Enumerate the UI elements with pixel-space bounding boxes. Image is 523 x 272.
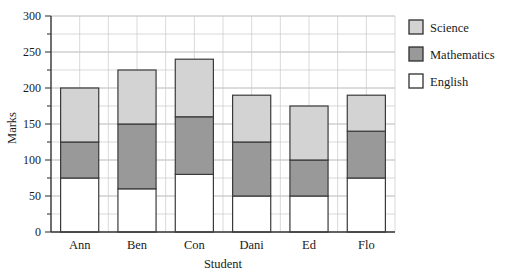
bar-flo: [347, 95, 385, 232]
bar-segment-ed-english: [290, 196, 328, 232]
y-tick-label-200: 200: [23, 81, 41, 95]
legend-swatch-mathematics: [409, 47, 423, 61]
bar-con: [175, 59, 213, 232]
bar-segment-ann-mathematics: [61, 142, 99, 178]
bar-segment-flo-science: [347, 95, 385, 131]
bar-segment-con-mathematics: [175, 117, 213, 175]
x-label-ed: Ed: [302, 238, 317, 252]
bar-segment-con-science: [175, 59, 213, 117]
x-axis-category-labels: AnnBenConDaniEdFlo: [69, 238, 375, 252]
y-axis-ticks: [45, 16, 51, 232]
bar-segment-ann-science: [61, 88, 99, 142]
y-tick-label-0: 0: [35, 225, 41, 239]
bar-segment-dani-mathematics: [233, 142, 271, 196]
x-label-ann: Ann: [69, 238, 91, 252]
x-axis-title: Student: [204, 257, 243, 271]
bar-ed: [290, 106, 328, 232]
bar-ben: [118, 70, 156, 232]
bar-segment-dani-science: [233, 95, 271, 142]
y-tick-label-100: 100: [23, 153, 41, 167]
x-label-flo: Flo: [358, 238, 375, 252]
bar-segment-ed-science: [290, 106, 328, 160]
y-tick-label-250: 250: [23, 45, 41, 59]
y-tick-label-300: 300: [23, 9, 41, 23]
y-axis-tick-labels: 050100150200250300: [23, 9, 41, 239]
bar-dani: [233, 95, 271, 232]
bar-segment-dani-english: [233, 196, 271, 232]
x-label-dani: Dani: [240, 238, 265, 252]
legend-label-science: Science: [430, 21, 469, 35]
bar-segment-con-english: [175, 174, 213, 232]
bar-segment-ann-english: [61, 178, 99, 232]
legend-label-english: English: [430, 75, 469, 89]
bar-segment-flo-english: [347, 178, 385, 232]
bar-segment-ben-english: [118, 189, 156, 232]
bar-segment-ben-mathematics: [118, 124, 156, 189]
legend-swatch-science: [409, 20, 423, 34]
bar-segment-ed-mathematics: [290, 160, 328, 196]
x-label-ben: Ben: [127, 238, 148, 252]
legend-label-mathematics: Mathematics: [430, 48, 495, 62]
y-tick-label-150: 150: [23, 117, 41, 131]
y-tick-label-50: 50: [29, 189, 41, 203]
chart-canvas: 050100150200250300 AnnBenConDaniEdFlo Ma…: [0, 0, 523, 272]
y-axis-title: Marks: [5, 112, 19, 144]
chart-legend: ScienceMathematicsEnglish: [409, 20, 495, 89]
stacked-bar-chart: 050100150200250300 AnnBenConDaniEdFlo Ma…: [0, 0, 523, 272]
legend-swatch-english: [409, 74, 423, 88]
bar-segment-ben-science: [118, 70, 156, 124]
bar-segment-flo-mathematics: [347, 131, 385, 178]
x-label-con: Con: [184, 238, 206, 252]
bar-ann: [61, 88, 99, 232]
